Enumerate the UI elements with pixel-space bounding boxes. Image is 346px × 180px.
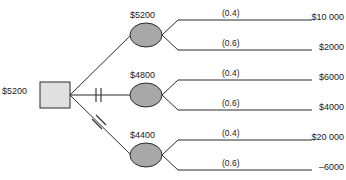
chance-node-3[interactable] [130, 143, 162, 167]
probability-label-3-2: (0.6) [222, 159, 239, 168]
payoff-label-3-2: –6000 [282, 163, 344, 172]
root-branch-line-1 [70, 35, 131, 95]
root-node-value-label: $5200 [2, 87, 27, 96]
chance-node-2[interactable] [130, 83, 162, 107]
payoff-label-2-2: $4000 [282, 103, 344, 112]
payoff-label-1-2: $2000 [282, 43, 344, 52]
chance-node-1-value-label: $5200 [130, 11, 155, 20]
root-decision-node[interactable] [40, 82, 70, 108]
outcome-line-1-1 [162, 20, 312, 35]
decision-tree-diagram: $5200 $5200 $4800 $4400 (0.4) (0.6) (0.4… [0, 0, 346, 180]
chance-node-3-value-label: $4400 [130, 131, 155, 140]
probability-label-2-2: (0.6) [222, 99, 239, 108]
chance-node-2-value-label: $4800 [130, 71, 155, 80]
probability-label-1-2: (0.6) [222, 39, 239, 48]
outcome-line-3-1 [162, 140, 312, 155]
probability-label-2-1: (0.4) [222, 69, 239, 78]
pruned-branch-mark-3 [92, 115, 106, 129]
root-branch-line-3 [70, 95, 131, 155]
chance-node-1[interactable] [130, 23, 162, 47]
probability-label-3-1: (0.4) [222, 129, 239, 138]
decision-tree-canvas [0, 0, 346, 180]
probability-label-1-1: (0.4) [222, 9, 239, 18]
payoff-label-2-1: $6000 [282, 73, 344, 82]
outcome-line-2-1 [162, 80, 312, 95]
payoff-label-3-1: $20 000 [282, 133, 344, 142]
payoff-label-1-1: $10 000 [282, 13, 344, 22]
